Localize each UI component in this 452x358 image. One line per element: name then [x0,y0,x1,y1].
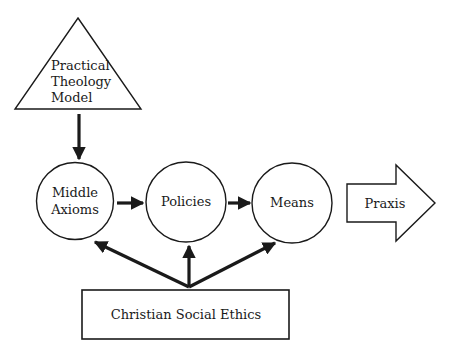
diagram-canvas: Practical Theology Model Middle Axioms P… [0,0,452,358]
middle-axioms-label-line-1: Middle [52,185,98,200]
model-label-line-1: Practical [51,58,110,73]
arrow-ethics-to-middle-axioms [95,242,189,287]
model-label-line-3: Model [51,90,92,105]
arrow-ethics-to-means [189,243,275,287]
practical-theology-model-node: Practical Theology Model [15,18,141,109]
middle-axioms-node: Middle Axioms [37,163,114,240]
means-label: Means [270,195,314,210]
policies-label: Policies [161,194,211,209]
praxis-node: Praxis [347,165,435,241]
policies-node: Policies [146,162,226,242]
circle-shape [37,163,114,240]
christian-social-ethics-node: Christian Social Ethics [82,290,289,339]
ethics-label: Christian Social Ethics [111,307,261,322]
middle-axioms-label-line-2: Axioms [50,202,99,217]
praxis-label: Praxis [365,196,406,211]
means-node: Means [252,163,332,243]
model-label-line-2: Theology [51,74,112,89]
